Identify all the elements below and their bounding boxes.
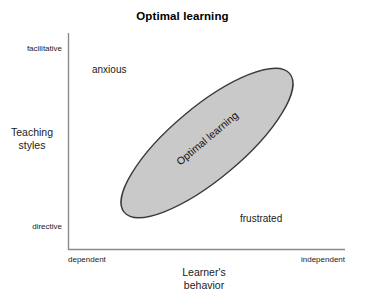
x-axis-tick-independent: independent [281,255,345,264]
x-axis-title: Learner's behavior [148,266,260,292]
y-axis-tick-directive: directive [8,222,62,231]
x-axis-tick-dependent: dependent [68,255,106,264]
y-axis-title: Teaching styles [2,126,62,152]
diagram-canvas: Optimal learning facilitative directive … [0,0,365,306]
y-axis-tick-facilitative: facilitative [8,44,62,53]
optimal-learning-ellipse [101,46,313,240]
zone-label-anxious: anxious [92,64,126,75]
zone-label-frustrated: frustrated [240,213,282,224]
